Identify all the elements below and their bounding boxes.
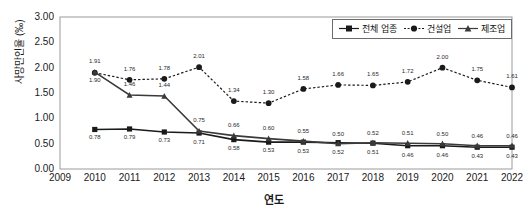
legend-label-all-industries: 전체 업종 — [362, 22, 397, 35]
data-point-label: 0.51 — [360, 149, 386, 155]
legend-marker-square-icon — [339, 24, 359, 33]
legend-item-all-industries[interactable]: 전체 업종 — [339, 22, 397, 35]
data-point-label: 0.53 — [256, 147, 282, 153]
data-point-label: 0.46 — [499, 133, 524, 139]
data-point-label: 0.78 — [82, 134, 108, 140]
data-point-label: 0.75 — [186, 117, 212, 123]
data-point-circle — [509, 85, 515, 91]
data-point-circle — [161, 76, 167, 82]
data-point-label: 0.46 — [464, 133, 490, 139]
data-point-label: 1.76 — [117, 66, 143, 72]
data-point-label: 0.52 — [325, 149, 351, 155]
data-point-label: 1.46 — [117, 81, 143, 87]
data-point-circle — [335, 82, 341, 88]
data-point-label: 0.46 — [395, 152, 421, 158]
data-point-label: 0.43 — [464, 153, 490, 159]
data-point-label: 1.90 — [82, 77, 108, 83]
data-point-circle — [405, 79, 411, 85]
data-point-label: 0.55 — [290, 128, 316, 134]
data-point-label: 1.78 — [151, 65, 177, 71]
legend-marker-triangle-icon — [458, 24, 478, 33]
data-point-circle — [196, 64, 202, 70]
data-point-label: 0.52 — [360, 130, 386, 136]
data-point-label: 1.66 — [325, 71, 351, 77]
data-point-label: 0.73 — [151, 137, 177, 143]
data-point-square — [162, 129, 167, 134]
data-point-label: 0.43 — [499, 153, 524, 159]
data-point-circle — [474, 77, 480, 83]
data-point-label: 1.75 — [464, 66, 490, 72]
x-axis-title-text: 연도 — [264, 194, 284, 206]
data-point-label: 1.34 — [221, 87, 247, 93]
data-point-label: 1.30 — [256, 89, 282, 95]
legend-item-manufacturing[interactable]: 제조업 — [458, 22, 505, 35]
chart-legend: 전체 업종 건설업 제조업 — [332, 19, 512, 39]
data-point-label: 1.91 — [82, 58, 108, 64]
data-point-label: 1.65 — [360, 71, 386, 77]
data-point-label: 1.44 — [151, 82, 177, 88]
legend-marker-circle-icon — [404, 24, 424, 33]
data-point-label: 0.66 — [221, 122, 247, 128]
data-point-label: 1.72 — [395, 68, 421, 74]
data-point-circle — [231, 98, 237, 104]
data-point-label: 2.00 — [429, 54, 455, 60]
x-axis-title: 연도 — [0, 191, 524, 207]
data-point-label: 0.50 — [325, 131, 351, 137]
data-point-label: 0.71 — [186, 139, 212, 145]
data-point-label: 1.58 — [290, 75, 316, 81]
data-point-label: 2.01 — [186, 53, 212, 59]
data-point-circle — [370, 83, 376, 89]
data-point-label: 0.79 — [117, 134, 143, 140]
data-point-label: 0.53 — [290, 148, 316, 154]
legend-item-construction[interactable]: 건설업 — [404, 22, 451, 35]
data-point-label: 0.46 — [429, 152, 455, 158]
data-point-label: 1.61 — [499, 73, 524, 79]
data-point-label: 0.58 — [221, 145, 247, 151]
data-point-label: 0.60 — [256, 125, 282, 131]
data-point-circle — [300, 86, 306, 92]
legend-label-manufacturing: 제조업 — [481, 22, 505, 35]
data-point-label: 0.51 — [395, 130, 421, 136]
data-point-circle — [440, 65, 446, 71]
legend-label-construction: 건설업 — [427, 22, 451, 35]
line-chart: 사망만인율 (‰) 0.000.501.001.502.002.503.00 2… — [0, 0, 524, 217]
data-point-square — [92, 127, 97, 132]
data-point-square — [127, 126, 132, 131]
data-point-circle — [266, 100, 272, 106]
data-point-label: 0.50 — [429, 131, 455, 137]
